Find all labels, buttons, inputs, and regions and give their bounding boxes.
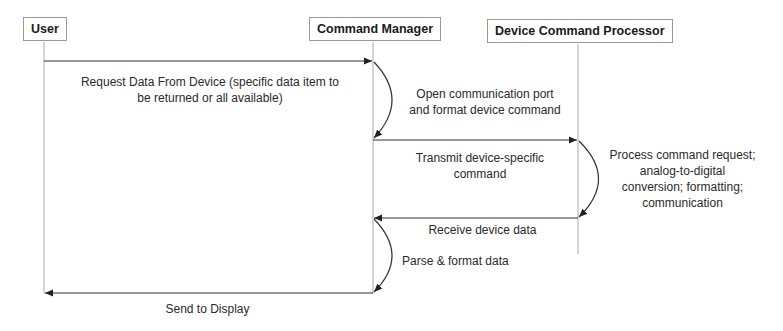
actor-command-manager: Command Manager <box>309 17 441 41</box>
label-parse-format: Parse & format data <box>402 253 542 269</box>
label-open-port: Open communication port and format devic… <box>395 86 575 118</box>
label-receive-data: Receive device data <box>395 222 570 238</box>
arc-open-port <box>374 62 392 138</box>
label-send-display: Send to Display <box>140 301 275 317</box>
label-request-data: Request Data From Device (specific data … <box>60 74 360 106</box>
actor-user: User <box>23 17 67 41</box>
label-process-request: Process command request; analog-to-digit… <box>595 147 770 211</box>
arc-parse-format <box>374 219 392 292</box>
label-transmit-command: Transmit device-specific command <box>390 150 570 182</box>
actor-device-command-processor: Device Command Processor <box>487 19 673 43</box>
